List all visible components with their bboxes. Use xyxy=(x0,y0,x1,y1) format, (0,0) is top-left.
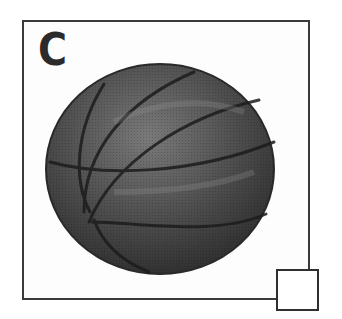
basketball-icon xyxy=(44,62,276,276)
select-checkbox[interactable] xyxy=(276,269,319,311)
